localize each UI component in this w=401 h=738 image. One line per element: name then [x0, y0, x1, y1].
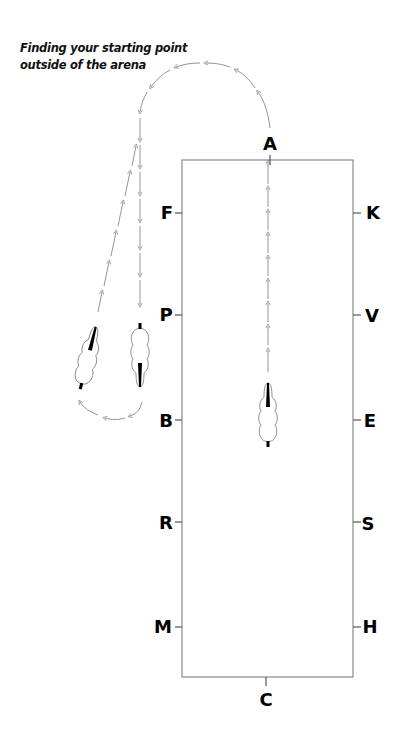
letter-k: K: [366, 204, 380, 222]
letter-a: A: [263, 135, 277, 153]
letter-c: C: [259, 691, 272, 709]
horse-icon-center: [259, 383, 278, 447]
letter-s: S: [362, 515, 375, 533]
arena-diagram: [0, 0, 401, 738]
horse-icon-left-down: [131, 323, 150, 387]
letter-e: E: [364, 412, 376, 430]
letter-r: R: [159, 514, 173, 532]
path-arrows: [80, 63, 270, 420]
letter-b: B: [159, 412, 173, 430]
letter-f: F: [161, 204, 173, 222]
horse-icon-left-up: [71, 325, 104, 392]
letter-v: V: [365, 307, 379, 325]
letter-h: H: [362, 618, 377, 636]
letter-p: P: [159, 306, 172, 324]
letter-m: M: [154, 618, 172, 636]
